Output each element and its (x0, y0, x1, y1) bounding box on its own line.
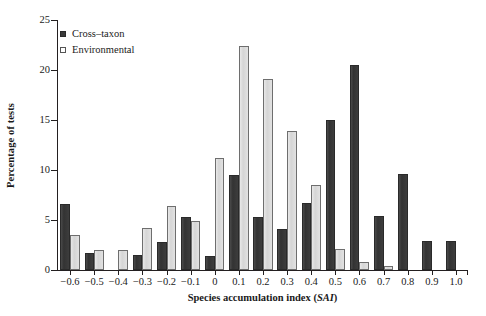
bar-environmental-0.6 (359, 262, 369, 270)
bar-cross-taxon-0.9 (422, 241, 432, 270)
y-axis-tick-label: 25 (40, 15, 51, 26)
bar-environmental--0.3 (142, 228, 152, 270)
x-axis-tick (70, 270, 71, 275)
legend-swatch-icon-cross-taxon (60, 31, 66, 37)
bar-cross-taxon--0.1 (181, 217, 191, 270)
x-axis-title: Species accumulation index (SAI) (57, 292, 468, 303)
bar-environmental--0.5 (94, 250, 104, 270)
chart-figure: Percentage of tests 0510152025−0.6−0.5−0… (0, 0, 486, 316)
x-axis-tick-label: 0 (212, 277, 217, 288)
x-axis-tick (456, 270, 457, 275)
bar-cross-taxon--0.6 (60, 204, 70, 270)
chart-legend: Cross–taxon Environmental (60, 26, 134, 58)
x-axis-tick (287, 270, 288, 275)
x-axis-tick-label: −0.1 (181, 277, 200, 288)
y-axis-tick-label: 0 (45, 265, 50, 276)
x-axis-tick-label: 0.2 (256, 277, 269, 288)
bar-cross-taxon--0.2 (157, 242, 167, 270)
bar-environmental-0 (215, 158, 225, 270)
bar-environmental--0.2 (167, 206, 177, 270)
bar-cross-taxon-1.0 (446, 241, 456, 270)
x-axis-tick (432, 270, 433, 275)
bar-environmental-0.3 (287, 131, 297, 270)
x-axis-tick-label: −0.5 (85, 277, 104, 288)
y-axis-tick-label: 15 (40, 115, 51, 126)
x-axis-tick (118, 270, 119, 275)
bar-environmental--0.6 (70, 235, 80, 270)
x-axis-tick (239, 270, 240, 275)
legend-swatch-icon-environmental (60, 47, 66, 53)
x-axis-title-main: Species accumulation index ( (188, 292, 317, 303)
bar-environmental--0.1 (191, 221, 201, 270)
x-axis-tick (215, 270, 216, 275)
bar-cross-taxon-0.3 (277, 229, 287, 270)
x-axis-tick-label: 0.9 (425, 277, 438, 288)
bar-cross-taxon-0 (205, 256, 215, 270)
bar-cross-taxon-0.6 (350, 65, 360, 270)
x-axis-tick (467, 270, 468, 275)
x-axis-tick (359, 270, 360, 275)
x-axis-tick-label: −0.4 (109, 277, 128, 288)
bar-cross-taxon--0.3 (133, 255, 143, 270)
bar-environmental-0.4 (311, 185, 321, 270)
y-axis-tick (51, 170, 58, 171)
x-axis-tick (384, 270, 385, 275)
y-axis-tick (51, 270, 58, 271)
x-axis-tick (94, 270, 95, 275)
y-axis-tick (51, 120, 58, 121)
y-axis-tick (51, 220, 58, 221)
legend-label-cross-taxon: Cross–taxon (72, 26, 125, 42)
x-axis-tick (191, 270, 192, 275)
bar-cross-taxon-0.1 (229, 175, 239, 270)
bar-cross-taxon-0.4 (302, 203, 312, 270)
bar-cross-taxon-0.7 (374, 216, 384, 270)
bar-environmental--0.4 (118, 250, 128, 270)
y-axis-tick-label: 20 (40, 65, 51, 76)
x-axis-tick-label: 0.1 (232, 277, 245, 288)
bar-cross-taxon-0.8 (398, 174, 408, 270)
bar-environmental-0.5 (335, 249, 345, 270)
x-axis-tick (335, 270, 336, 275)
bar-cross-taxon--0.5 (85, 253, 95, 270)
x-axis-tick (408, 270, 409, 275)
x-axis-tick (167, 270, 168, 275)
legend-item-cross-taxon: Cross–taxon (60, 26, 134, 42)
y-axis-tick (51, 20, 58, 21)
y-axis-tick-label: 5 (45, 215, 50, 226)
y-axis-title: Percentage of tests (4, 20, 18, 271)
x-axis-tick-label: 1.0 (449, 277, 462, 288)
x-axis-tick-label: −0.2 (157, 277, 176, 288)
x-axis-tick-label: 0.6 (353, 277, 366, 288)
y-axis-title-label: Percentage of tests (6, 103, 17, 188)
x-axis-title-end: ) (334, 292, 338, 303)
y-axis-tick (51, 70, 58, 71)
y-axis-tick-label: 10 (40, 165, 51, 176)
x-axis-tick-label: −0.3 (133, 277, 152, 288)
x-axis-tick (142, 270, 143, 275)
x-axis-tick (263, 270, 264, 275)
bar-environmental-0.1 (239, 46, 249, 270)
bar-cross-taxon-0.2 (253, 217, 263, 270)
legend-item-environmental: Environmental (60, 42, 134, 58)
x-axis-tick-label: 0.3 (281, 277, 294, 288)
x-axis-tick-label: 0.4 (305, 277, 318, 288)
x-axis-tick-label: 0.5 (329, 277, 342, 288)
x-axis-title-italic: SAI (317, 292, 334, 303)
x-axis-tick (311, 270, 312, 275)
bar-cross-taxon-0.5 (326, 120, 336, 270)
x-axis-tick-label: 0.7 (377, 277, 390, 288)
x-axis-tick-label: 0.8 (401, 277, 414, 288)
x-axis-tick-label: −0.6 (61, 277, 80, 288)
bar-environmental-0.2 (263, 79, 273, 270)
legend-label-environmental: Environmental (72, 42, 134, 58)
bar-environmental-0.7 (384, 266, 394, 270)
